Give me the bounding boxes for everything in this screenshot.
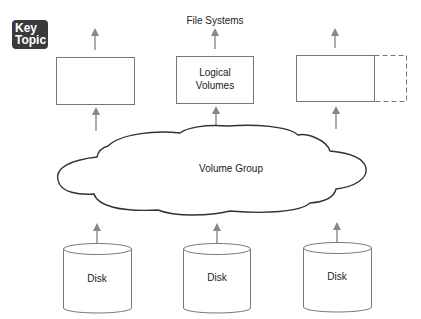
volume-group-label: Volume Group — [181, 163, 281, 174]
arrow-up-icon — [333, 222, 341, 243]
file-systems-label: File Systems — [183, 15, 247, 26]
arrow-up-icon — [331, 28, 339, 48]
arrow-up-icon — [91, 28, 99, 50]
arrow-up-icon — [212, 106, 220, 128]
disk-label-1: Disk — [72, 273, 122, 284]
logical-volume-box-3 — [297, 56, 375, 102]
arrow-up-icon — [332, 106, 340, 129]
fs-arrows — [91, 28, 339, 50]
logical-volume-extension-dashed — [375, 56, 407, 102]
arrow-up-icon — [92, 107, 100, 131]
disk-label-3: Disk — [312, 271, 362, 282]
logical-volumes-label-line1: Logical — [176, 66, 254, 79]
logical-volume-box-1 — [57, 58, 135, 105]
disk-arrows — [93, 222, 341, 244]
disk-label-2: Disk — [192, 272, 242, 283]
logical-volumes-label: Logical Volumes — [176, 66, 254, 92]
arrow-up-icon — [211, 28, 219, 49]
arrow-up-icon — [93, 223, 101, 244]
arrow-up-icon — [213, 223, 221, 244]
logical-volumes-label-line2: Volumes — [176, 79, 254, 92]
